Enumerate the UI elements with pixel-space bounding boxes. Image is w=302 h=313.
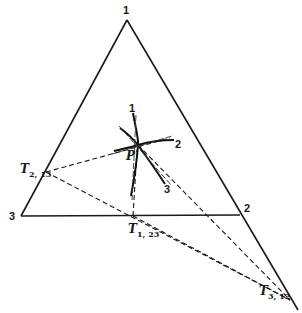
- T123-sub: 1, 23: [137, 229, 160, 239]
- ternary-tangent-diagram: 1 2 3 1 2 3 P T 2, 13 T 1, 23 T 3, 12: [0, 0, 302, 313]
- curve-1-label: 1: [129, 102, 135, 114]
- label-T-1-23: T 1, 23: [128, 222, 160, 239]
- label-T-2-13: T 2, 13: [20, 162, 52, 179]
- edge-1-3: [21, 20, 127, 216]
- curve-2-label: 2: [175, 138, 181, 150]
- vertex-2-label: 2: [244, 202, 250, 214]
- label-T-3-12: T 3, 12: [259, 284, 290, 301]
- T213-sub: 2, 13: [29, 169, 52, 179]
- curve-2: [114, 140, 174, 151]
- dash-T213-to-P: [46, 138, 170, 172]
- vertex-1-label: 1: [123, 4, 129, 16]
- point-P-label: P: [125, 149, 136, 163]
- vertex-3-label: 3: [9, 210, 15, 222]
- T312-sub: 3, 12: [268, 291, 290, 301]
- curve-3-label: 3: [164, 183, 170, 195]
